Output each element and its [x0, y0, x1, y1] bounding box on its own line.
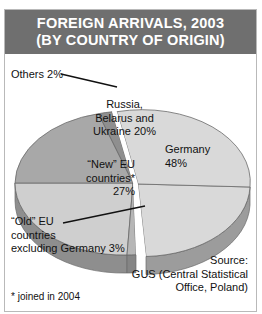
- label-others: Others 2%: [11, 68, 63, 82]
- label-others-text: Others 2%: [11, 68, 63, 80]
- chart-page: FOREIGN ARRIVALS, 2003 (BY COUNTRY OF OR…: [0, 0, 262, 314]
- source-note: Source: GUS (Central Statistical Office,…: [88, 254, 248, 295]
- label-new-eu-line-3: 27%: [55, 185, 135, 199]
- label-old-eu-line-1: “Old” EU: [11, 215, 125, 229]
- chart-title-line-1: FOREIGN ARRIVALS, 2003: [37, 15, 224, 32]
- label-germany-line-1: Germany: [165, 143, 210, 157]
- label-old-eu-countries: “Old” EU countries excluding Germany 3%: [11, 215, 125, 256]
- label-old-eu-line-2: countries: [11, 229, 125, 243]
- pie-chart-area: Others 2% Russia, Belarus and Ukraine 20…: [5, 54, 256, 311]
- leader-line-others: [61, 74, 117, 87]
- label-new-eu-line-1: “New” EU: [55, 158, 135, 172]
- source-line-1: Source:: [88, 254, 248, 268]
- label-germany: Germany 48%: [165, 143, 210, 170]
- label-new-eu-line-2: countries*: [55, 172, 135, 186]
- footnote-text: * joined in 2004: [11, 291, 80, 302]
- label-russia-line-3: Ukraine 20%: [93, 125, 156, 139]
- slice-top-germany: [138, 184, 250, 257]
- label-new-eu-countries: “New” EU countries* 27%: [55, 158, 135, 199]
- source-line-3: Office, Poland): [88, 281, 248, 295]
- source-line-2: GUS (Central Statistical: [88, 268, 248, 282]
- label-russia-line-2: Belarus and: [93, 112, 156, 126]
- label-russia-line-1: Russia,: [93, 98, 156, 112]
- chart-title-line-2: (BY COUNTRY OF ORIGIN): [36, 32, 225, 49]
- label-russia-belarus-ukraine: Russia, Belarus and Ukraine 20%: [93, 98, 156, 139]
- footnote: * joined in 2004: [11, 290, 80, 304]
- chart-title-banner: FOREIGN ARRIVALS, 2003 (BY COUNTRY OF OR…: [5, 10, 256, 54]
- label-germany-line-2: 48%: [165, 157, 210, 171]
